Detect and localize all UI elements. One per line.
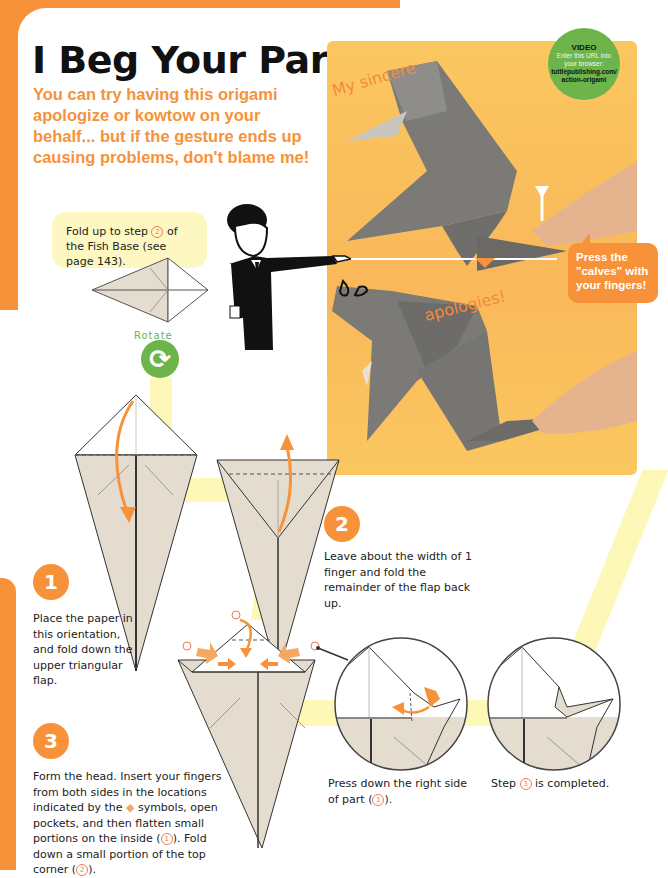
step-ref-marker: 2 [151, 226, 163, 238]
photo-divider [327, 258, 557, 260]
detail-circle-completed [487, 637, 621, 771]
step-1-badge: 1 [33, 564, 69, 600]
press-calves-callout: Press the "calves" with your fingers! [568, 243, 658, 303]
detail-circle-press [334, 637, 468, 771]
video-url-line1[interactable]: tuttlepublishing.com/ [551, 68, 617, 76]
video-badge-line1: Enter this URL into [557, 52, 611, 60]
part-2-marker: 2 [76, 864, 88, 876]
orange-side-tab [0, 578, 16, 870]
video-url-line2[interactable]: action-origami [562, 76, 607, 84]
pointing-man-illustration [215, 198, 355, 358]
part-1-marker: 1 [161, 833, 173, 845]
video-badge[interactable]: VIDEO Enter this URL into your browser: … [548, 28, 620, 100]
step-3-text: Form the head. Insert your fingers from … [33, 769, 238, 878]
step-3-marker: 3 [520, 778, 532, 790]
intro-text-before: Fold up to step [66, 225, 151, 238]
step-3-badge: 3 [33, 723, 69, 759]
rotate-label: Rotate [134, 330, 173, 341]
detail-press-text-after: ). [384, 793, 392, 806]
video-badge-line2: your browser: [564, 60, 603, 68]
video-badge-title: VIDEO [572, 44, 597, 52]
detail-completed-text: Step 3 is completed. [491, 776, 641, 792]
fish-base-diagram [90, 258, 220, 328]
down-triangle-icon [475, 258, 495, 268]
step-2-text: Leave about the width of 1 finger and fo… [324, 549, 474, 611]
part-1-marker: 1 [372, 794, 384, 806]
rotate-icon: ⟳ [141, 340, 179, 378]
detail-press-text: Press down the right side of part (1). [328, 776, 478, 807]
detail-completed-after: is completed. [532, 777, 610, 790]
step-3-text-part: ). [88, 863, 96, 876]
detail-press-text-before: Press down the right side of part ( [328, 777, 467, 806]
step-2-badge: 2 [324, 506, 360, 542]
page-subtitle: You can try having this origami apologiz… [33, 84, 323, 168]
step-1-text: Place the paper in this orientation, and… [33, 611, 143, 689]
detail-completed-before: Step [491, 777, 520, 790]
